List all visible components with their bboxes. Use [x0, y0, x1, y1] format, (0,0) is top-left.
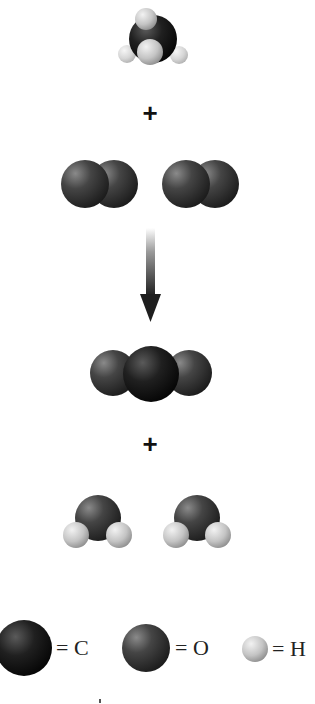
- hydrogen-atom: [205, 522, 231, 548]
- oxygen-molecule: [162, 160, 239, 208]
- reaction-diagram: + +: [0, 0, 315, 704]
- hydrogen-atom: [137, 39, 163, 65]
- legend-hydrogen-label: = H: [272, 638, 306, 660]
- methane-molecule: [118, 8, 188, 65]
- legend: [0, 620, 268, 676]
- carbon-dioxide-molecule: [90, 346, 212, 402]
- legend-oxygen-icon: [122, 624, 170, 672]
- oxygen-molecule: [61, 160, 138, 208]
- hydrogen-atom: [163, 522, 189, 548]
- plus-sign: +: [142, 98, 157, 128]
- water-molecule: [63, 495, 132, 548]
- hydrogen-atom: [135, 8, 157, 30]
- legend-carbon-label: = C: [56, 637, 89, 659]
- reaction-arrow-icon: [140, 228, 161, 322]
- legend-oxygen-label: = O: [175, 637, 209, 659]
- oxygen-atom: [61, 160, 109, 208]
- legend-hydrogen-icon: [242, 636, 268, 662]
- hydrogen-atom: [106, 522, 132, 548]
- artifact-dot: [99, 699, 101, 703]
- carbon-atom: [123, 346, 179, 402]
- plus-sign: +: [142, 429, 157, 459]
- legend-carbon-icon: [0, 620, 52, 676]
- water-molecule: [163, 495, 231, 548]
- oxygen-atom: [162, 160, 210, 208]
- hydrogen-atom: [63, 522, 89, 548]
